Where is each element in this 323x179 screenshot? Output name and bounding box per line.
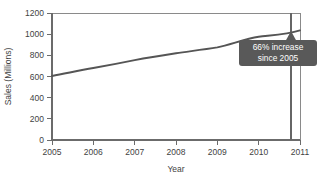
y-tick-label-400: 400 [30,93,44,103]
x-tick-label-2009: 2009 [208,147,227,157]
x-tick-label-2010: 2010 [249,147,268,157]
line-chart-plot: 1200 1000 800 600 400 200 0 2005 2006 20… [0,0,323,179]
y-axis-title: Sales (Millions) [3,48,13,106]
callout-line-2: since 2005 [258,53,299,63]
callout-line-1: 66% increase [253,42,304,52]
y-tick-label-1000: 1000 [25,29,44,39]
plot-frame [52,13,300,140]
x-tick-label-2011: 2011 [291,147,310,157]
y-tick-label-200: 200 [30,114,44,124]
x-tick-label-2005: 2005 [43,147,62,157]
x-tick-label-2006: 2006 [84,147,103,157]
y-tick-label-1200: 1200 [25,8,44,18]
y-tick-label-600: 600 [30,72,44,82]
y-tick-label-0: 0 [39,135,44,145]
x-tick-label-2008: 2008 [167,147,186,157]
y-tick-label-800: 800 [30,50,44,60]
x-tick-label-2007: 2007 [125,147,144,157]
x-axis-title: Year [167,164,184,174]
chart-container: U.S. Convenience Store Merchandise Sales… [0,0,323,179]
